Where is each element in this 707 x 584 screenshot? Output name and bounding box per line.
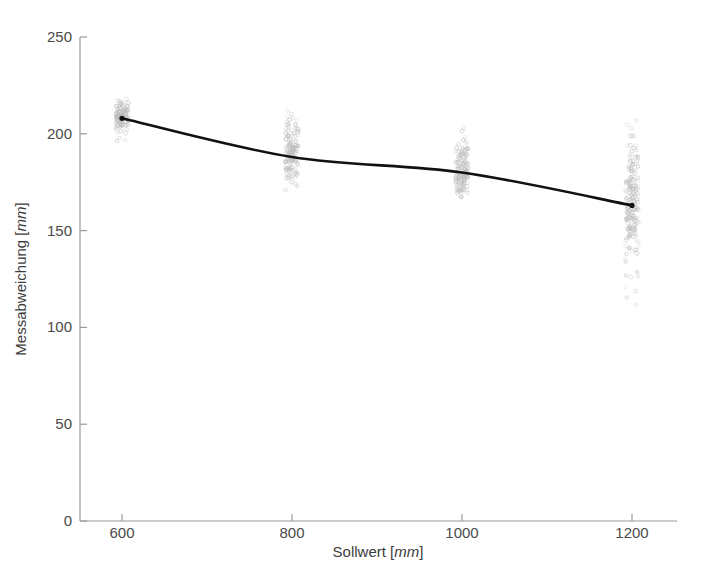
figure-container: 050100150200250 60080010001200 Sollwert … (0, 0, 707, 584)
x-tick-label: 600 (109, 524, 134, 541)
y-tick-label: 150 (47, 222, 72, 239)
x-axis-title-main: Sollwert [ (333, 543, 396, 560)
x-tick-label: 1000 (445, 524, 478, 541)
chart-canvas: 050100150200250 60080010001200 Sollwert … (0, 0, 707, 584)
trend-line-endpoint (119, 116, 124, 121)
y-tick-label: 200 (47, 125, 72, 142)
y-tick-label: 250 (47, 28, 72, 45)
x-axis-title-close: ] (419, 543, 423, 560)
x-tick-label: 1200 (615, 524, 648, 541)
y-tick-label: 0 (64, 512, 72, 529)
y-axis-title-unit: mm (12, 206, 29, 231)
y-axis-title-main: Messabweichung [ (12, 231, 29, 356)
figure-background (0, 0, 707, 584)
y-axis-title: Messabweichung [mm] (12, 202, 29, 355)
x-axis-title-unit: mm (394, 543, 419, 560)
y-tick-label: 100 (47, 318, 72, 335)
y-axis-title-close: ] (12, 202, 29, 206)
x-axis-title: Sollwert [mm] (333, 543, 424, 560)
y-tick-label: 50 (55, 415, 72, 432)
trend-line-endpoint (629, 203, 634, 208)
x-tick-label: 800 (279, 524, 304, 541)
